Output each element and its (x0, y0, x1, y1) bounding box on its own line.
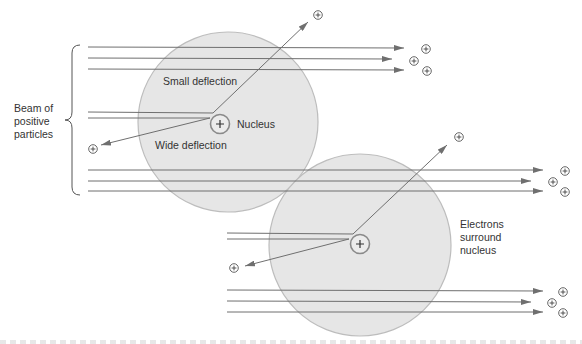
beam-brace (65, 45, 80, 195)
beam-label: Beam of positive particles (14, 102, 66, 141)
rutherford-scattering-diagram: Beam of positive particles Small deflect… (0, 0, 582, 344)
small-deflection-label: Small deflection (163, 75, 237, 88)
diagram-canvas (0, 0, 582, 344)
cropped-caption (0, 340, 582, 344)
wide-deflection-label: Wide deflection (155, 139, 227, 152)
nucleus-label: Nucleus (237, 118, 275, 131)
electrons-label: Electrons surround nucleus (460, 218, 516, 257)
